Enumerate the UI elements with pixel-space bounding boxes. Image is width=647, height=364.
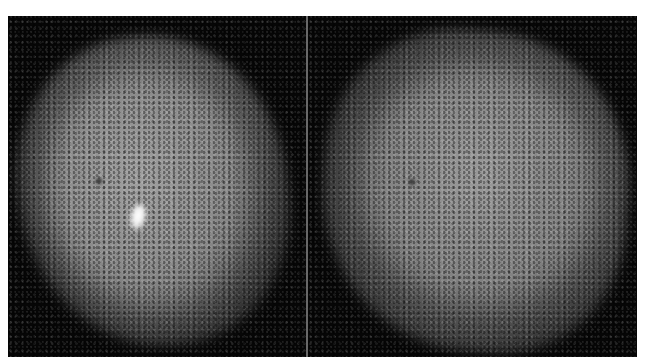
right-noise-texture [308, 16, 637, 357]
right-scan-panel [308, 16, 637, 357]
image-figure [8, 16, 637, 357]
left-scan-panel [8, 16, 306, 357]
left-cold-spot [96, 178, 102, 184]
left-noise-texture [8, 16, 306, 357]
cropped-caption-strip [0, 0, 647, 16]
right-cold-spot [409, 179, 415, 185]
